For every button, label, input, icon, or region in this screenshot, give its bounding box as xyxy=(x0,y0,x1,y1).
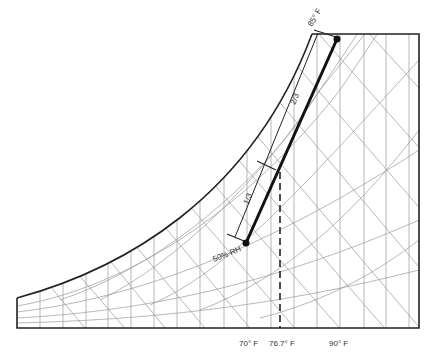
fraction-scale-line xyxy=(235,33,318,237)
tick-label-70f: 70° F xyxy=(239,339,258,348)
label-85f: 85° F xyxy=(306,7,323,28)
label-50-rh: 50% RH xyxy=(211,244,242,264)
label-2-3: 2/3 xyxy=(289,92,302,106)
tick-label-90f: 90° F xyxy=(329,339,348,348)
start-point xyxy=(243,240,250,247)
tick-label-76-7f: 76.7° F xyxy=(269,339,295,348)
process-line xyxy=(246,39,337,243)
end-point xyxy=(334,36,341,43)
psychrometric-chart: 85° F 2/3 1/3 50% RH 70° F 76.7° F 90° F xyxy=(0,0,433,363)
grid xyxy=(17,0,430,340)
